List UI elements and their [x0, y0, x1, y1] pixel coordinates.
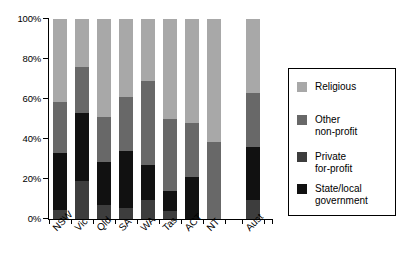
legend-swatch-state-local-government	[297, 184, 307, 194]
legend-item-private-for-profit[interactable]: Private for-profit	[297, 151, 352, 174]
legend-label-state-local-government: State/local government	[315, 183, 368, 206]
y-axis-tick-mark	[43, 178, 49, 179]
bar-nt	[207, 19, 221, 219]
bar-segment-other-non-profit	[207, 142, 221, 219]
bar-segment-other-non-profit	[53, 102, 67, 153]
legend-item-state-local-government[interactable]: State/local government	[297, 183, 368, 206]
bar-segment-other-non-profit	[97, 117, 111, 162]
bar-segment-religious	[75, 19, 89, 67]
bar-nsw	[53, 19, 67, 219]
y-axis-tick-label-text: 80%	[1, 54, 41, 64]
bar-segment-religious	[246, 19, 260, 93]
legend-item-other-non-profit[interactable]: Other non-profit	[297, 114, 357, 137]
x-axis-tick-mark	[93, 219, 94, 224]
bar-segment-state-local-government	[75, 113, 89, 181]
bar-segment-religious	[185, 19, 199, 123]
bar-segment-state-local-government	[141, 165, 155, 200]
y-axis-tick-label-text: 0%	[1, 214, 41, 224]
bar-segment-religious	[53, 19, 67, 102]
bar-wa	[141, 19, 155, 219]
x-axis-tick-mark	[225, 219, 226, 224]
bar-qld	[97, 19, 111, 219]
bar-segment-state-local-government	[97, 162, 111, 205]
bar-segment-other-non-profit	[141, 81, 155, 165]
bar-segment-state-local-government	[53, 153, 67, 210]
x-axis-tick-mark	[115, 219, 116, 224]
y-axis-tick-mark	[43, 58, 49, 59]
x-axis-tick-mark	[159, 219, 160, 224]
legend-swatch-other-non-profit	[297, 115, 307, 125]
y-axis-tick-label-text: 40%	[1, 134, 41, 144]
bar-segment-other-non-profit	[185, 123, 199, 177]
legend-label-religious: Religious	[315, 81, 356, 93]
bar-segment-other-non-profit	[163, 119, 177, 191]
y-axis-tick-mark	[43, 98, 49, 99]
bar-tas	[163, 19, 177, 219]
y-axis-tick-label: 40%	[0, 134, 41, 144]
bar-segment-private-for-profit	[75, 181, 89, 219]
legend-item-religious[interactable]: Religious	[297, 81, 356, 93]
bar-segment-state-local-government	[246, 147, 260, 200]
y-axis-line	[48, 18, 49, 219]
bar-segment-state-local-government	[163, 191, 177, 211]
bar-segment-religious	[207, 19, 221, 142]
legend-label-private-for-profit: Private for-profit	[315, 151, 352, 174]
legend-swatch-religious	[297, 82, 307, 92]
bar-aust	[246, 19, 260, 219]
y-axis-tick-label: 0%	[0, 214, 41, 224]
x-axis-tick-mark	[181, 219, 182, 224]
stacked-bar-chart-figure: 100%80%60%40%20%0% NSWVicQldSAWATasACTNT…	[0, 0, 400, 271]
legend-swatch-private-for-profit	[297, 152, 307, 162]
bar-segment-other-non-profit	[75, 67, 89, 113]
bar-segment-other-non-profit	[246, 93, 260, 147]
legend-label-other-non-profit: Other non-profit	[315, 114, 357, 137]
y-axis-tick-mark	[43, 138, 49, 139]
bar-segment-religious	[119, 19, 133, 97]
y-axis-tick-label-text: 100%	[1, 14, 41, 24]
bar-segment-religious	[163, 19, 177, 119]
bar-segment-religious	[141, 19, 155, 81]
bar-segment-state-local-government	[119, 151, 133, 208]
y-axis-tick-label: 20%	[0, 174, 41, 184]
bar-segment-other-non-profit	[119, 97, 133, 151]
bar-act	[185, 19, 199, 219]
bar-sa	[119, 19, 133, 219]
bar-vic	[75, 19, 89, 219]
bar-segment-religious	[97, 19, 111, 117]
x-axis-tick-mark	[272, 219, 273, 224]
y-axis-tick-label: 80%	[0, 54, 41, 64]
x-axis-tick-mark	[242, 219, 243, 224]
y-axis-tick-label-text: 20%	[1, 174, 41, 184]
y-axis-tick-label: 60%	[0, 94, 41, 104]
y-axis-tick-label-text: 60%	[1, 94, 41, 104]
x-axis-tick-mark	[49, 219, 50, 224]
x-axis-tick-mark	[137, 219, 138, 224]
plot-area: 100%80%60%40%20%0% NSWVicQldSAWATasACTNT…	[0, 0, 285, 271]
chart-legend: ReligiousOther non-profitPrivate for-pro…	[288, 68, 396, 216]
y-axis-tick-label: 100%	[0, 14, 41, 24]
y-axis-tick-mark	[43, 18, 49, 19]
